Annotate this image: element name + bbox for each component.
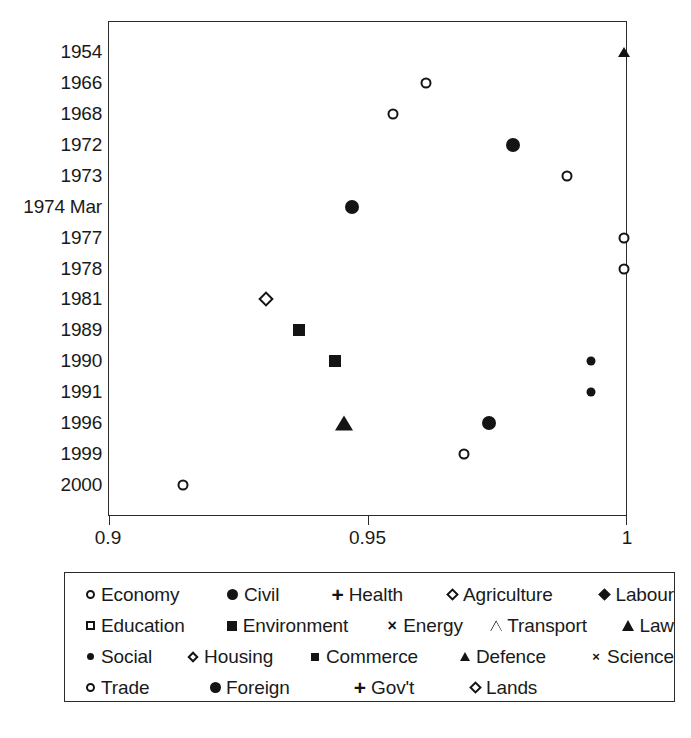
legend-item-gov-t[interactable]: +Gov't	[349, 678, 464, 698]
y-axis-tick-label: 1999	[0, 444, 102, 463]
y-axis-tick-labels: 195419661968197219731974 Mar197719781981…	[0, 21, 102, 516]
legend-item-science[interactable]: ×Science	[585, 647, 674, 667]
data-point	[562, 170, 573, 181]
y-axis-tick-label: 1981	[0, 289, 102, 308]
legend-item-label: Civil	[244, 585, 279, 605]
data-point	[586, 388, 595, 397]
legend-row: SocialHousingCommerceDefence×Science	[65, 641, 674, 672]
legend-item-agriculture[interactable]: Agriculture	[441, 585, 593, 605]
circle-open-marker-icon	[79, 678, 101, 698]
y-axis-tick-label: 1991	[0, 382, 102, 401]
legend-item-label: Transport	[507, 616, 587, 636]
diamond-open-marker-icon	[464, 678, 486, 698]
legend-item-label: Environment	[243, 616, 349, 636]
legend-item-trade[interactable]: Trade	[79, 678, 204, 698]
data-point	[618, 47, 630, 57]
diamond-open-small-marker-icon	[182, 647, 204, 667]
legend-item-labour[interactable]: Labour	[593, 585, 674, 605]
circle-open-marker-icon	[79, 585, 101, 605]
data-point	[619, 232, 630, 243]
data-point	[335, 416, 353, 431]
plus-marker-icon: +	[327, 585, 349, 605]
legend-item-label: Defence	[476, 647, 546, 667]
y-axis-tick-label: 1989	[0, 320, 102, 339]
scatter-chart-figure: 195419661968197219731974 Mar197719781981…	[0, 0, 691, 738]
legend-item-environment[interactable]: Environment	[221, 616, 382, 636]
triangle-filled-small-marker-icon	[454, 647, 476, 667]
circle-filled-marker-icon	[204, 678, 226, 698]
x-axis-tick-labels: 0.90.951	[108, 527, 627, 555]
legend-item-foreign[interactable]: Foreign	[204, 678, 349, 698]
legend-item-label: Trade	[101, 678, 149, 698]
legend-item-law[interactable]: Law	[617, 616, 674, 636]
y-axis-tick-label: 1972	[0, 135, 102, 154]
legend-item-label: Lands	[486, 678, 537, 698]
y-axis-tick-label: 1954	[0, 42, 102, 61]
y-axis-tick-label: 1966	[0, 73, 102, 92]
x-axis-tick-mark	[368, 516, 369, 525]
legend-item-label: Housing	[204, 647, 273, 667]
legend-item-label: Gov't	[371, 678, 414, 698]
legend-item-label: Science	[607, 647, 674, 667]
square-open-marker-icon	[79, 616, 101, 636]
data-points-layer	[108, 21, 627, 516]
cross-marker-icon: ×	[381, 616, 403, 636]
y-axis-tick-label: 1974 Mar	[0, 197, 102, 216]
x-axis-tick-mark	[109, 516, 110, 525]
data-point	[329, 355, 341, 367]
legend-item-label: Education	[101, 616, 185, 636]
legend-item-label: Health	[349, 585, 403, 605]
legend-item-commerce[interactable]: Commerce	[304, 647, 454, 667]
x-axis-tick-label: 0.9	[95, 527, 121, 549]
legend-item-label: Social	[101, 647, 152, 667]
legend-item-label: Economy	[101, 585, 180, 605]
triangle-filled-marker-icon	[617, 616, 639, 636]
dot-small-marker-icon	[79, 647, 101, 667]
y-axis-tick-label: 1977	[0, 228, 102, 247]
legend-item-social[interactable]: Social	[79, 647, 182, 667]
legend-item-label: Agriculture	[463, 585, 553, 605]
square-small-marker-icon	[304, 647, 326, 667]
legend-item-label: Commerce	[326, 647, 418, 667]
data-point	[178, 480, 189, 491]
data-point	[458, 449, 469, 460]
legend-item-label: Law	[639, 616, 674, 636]
legend-item-label: Energy	[403, 616, 463, 636]
legend-item-transport[interactable]: Transport	[485, 616, 617, 636]
legend-item-economy[interactable]: Economy	[79, 585, 222, 605]
legend-item-housing[interactable]: Housing	[182, 647, 304, 667]
legend-item-defence[interactable]: Defence	[454, 647, 585, 667]
legend-item-label: Labour	[615, 585, 674, 605]
data-point	[345, 200, 359, 214]
legend-row: EconomyCivil+HealthAgricultureLabour	[65, 579, 674, 610]
legend-row: TradeForeign+Gov'tLands	[65, 672, 674, 703]
chart-legend: EconomyCivil+HealthAgricultureLabourEduc…	[64, 572, 675, 702]
circle-filled-marker-icon	[222, 585, 244, 605]
legend-item-energy[interactable]: ×Energy	[381, 616, 485, 636]
data-point	[619, 263, 630, 274]
diamond-filled-marker-icon	[593, 585, 615, 605]
legend-row: EducationEnvironment×EnergyTransportLaw	[65, 610, 674, 641]
square-filled-marker-icon	[221, 616, 243, 636]
legend-item-health[interactable]: +Health	[327, 585, 441, 605]
x-axis-tick-mark	[626, 516, 627, 525]
x-axis-tick-marks	[108, 516, 627, 526]
y-axis-tick-label: 1978	[0, 259, 102, 278]
cross-small-marker-icon: ×	[585, 647, 607, 667]
triangle-open-marker-icon	[485, 616, 507, 636]
x-axis-tick-label: 1	[622, 527, 633, 549]
data-point	[388, 108, 399, 119]
data-point	[293, 324, 305, 336]
data-point	[421, 77, 432, 88]
y-axis-tick-label: 1996	[0, 413, 102, 432]
data-point	[586, 357, 595, 366]
legend-item-education[interactable]: Education	[79, 616, 221, 636]
legend-item-civil[interactable]: Civil	[222, 585, 327, 605]
legend-item-label: Foreign	[226, 678, 290, 698]
x-axis-tick-label: 0.95	[349, 527, 386, 549]
data-point	[506, 138, 520, 152]
plus-marker-icon: +	[349, 678, 371, 698]
data-point	[482, 416, 496, 430]
legend-item-lands[interactable]: Lands	[464, 678, 537, 698]
diamond-open-marker-icon	[441, 585, 463, 605]
